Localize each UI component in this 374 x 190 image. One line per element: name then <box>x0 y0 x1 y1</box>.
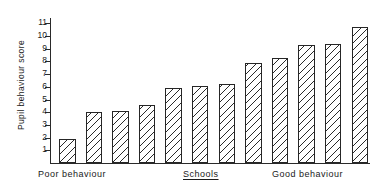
bar <box>112 111 129 163</box>
y-tick-label: 4 <box>42 106 47 117</box>
y-tick-label: 7 <box>42 68 47 79</box>
y-tick-label: 10 <box>38 30 47 41</box>
bar <box>325 44 342 163</box>
bar <box>219 84 236 163</box>
y-tick-label: 6 <box>42 81 47 92</box>
y-axis-label: Pupil behaviour score <box>14 10 28 160</box>
bar-series <box>51 18 370 164</box>
y-tick-label: 2 <box>42 132 47 143</box>
bar <box>192 86 209 163</box>
bar <box>139 105 156 163</box>
y-tick-label: 8 <box>42 55 47 66</box>
x-axis-captions: Poor behaviour Schools Good behaviour <box>0 168 374 188</box>
y-tick-label: 5 <box>42 94 47 105</box>
plot-area: 1234567891011 <box>50 18 370 164</box>
bar <box>165 88 182 163</box>
bar <box>272 58 289 163</box>
caption-good-behaviour: Good behaviour <box>272 168 343 180</box>
bar <box>298 45 315 163</box>
bar <box>59 139 76 163</box>
y-tick-label: 9 <box>42 43 47 54</box>
caption-poor-behaviour: Poor behaviour <box>38 168 106 180</box>
y-tick-label: 1 <box>42 144 47 155</box>
bar-chart: Pupil behaviour score 1234567891011 Poor… <box>0 0 374 190</box>
bar <box>352 27 369 163</box>
y-tick-label: 3 <box>42 119 47 130</box>
y-tick-label: 11 <box>38 17 47 28</box>
bar <box>245 63 262 163</box>
bar <box>86 112 103 163</box>
caption-schools: Schools <box>183 168 219 180</box>
